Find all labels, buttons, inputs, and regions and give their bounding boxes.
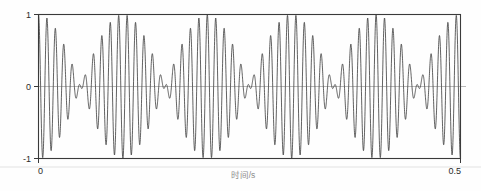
figure-canvas: 1 0 -1 0 0.5 时间/s xyxy=(0,0,481,191)
y-tick-label-neg1: -1 xyxy=(23,154,31,164)
x-axis-title: 时间/s xyxy=(231,170,256,180)
plot-area-wrapper: 1 0 -1 0 0.5 时间/s xyxy=(0,0,481,191)
x-tick-label-0: 0 xyxy=(38,166,43,176)
line-chart-svg: 1 0 -1 0 0.5 时间/s xyxy=(0,0,481,191)
y-tick-label-0: 0 xyxy=(26,82,31,92)
y-tick-label-1: 1 xyxy=(26,10,31,20)
x-tick-label-05: 0.5 xyxy=(448,166,461,176)
